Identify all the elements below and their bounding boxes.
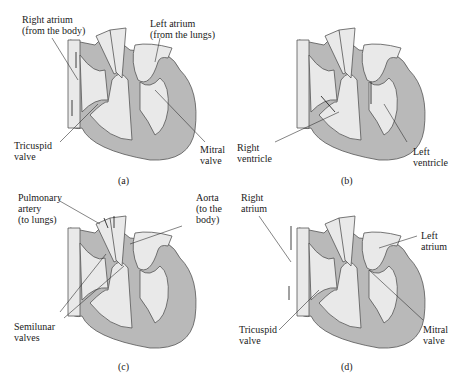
panel-d: Right atrium Left atrium Tricuspid valve…: [229, 188, 457, 373]
label-tricuspid-valve: Tricuspid valve: [14, 140, 52, 162]
label-tricuspid-valve: Tricuspid valve: [239, 324, 277, 346]
label-aorta: Aorta (to the body): [196, 192, 222, 225]
label-semilunar-valves: Semilunar valves: [14, 321, 55, 343]
label-right-atrium: Right atrium: [241, 192, 267, 214]
label-right-ventricle: Right ventricle: [237, 142, 272, 164]
panel-a: Right atrium (from the body) Left atrium…: [0, 0, 228, 186]
label-left-ventricle: Left ventricle: [413, 146, 448, 168]
caption-b: (b): [341, 175, 353, 186]
caption-a: (a): [118, 175, 129, 186]
panel-b: Right ventricle Left ventricle (b): [229, 0, 457, 186]
label-mitral-valve: Mitral valve: [423, 324, 448, 346]
panel-c: Pulmonary artery (to lungs) Aorta (to th…: [0, 188, 228, 373]
label-left-atrium: Left atrium (from the lungs): [150, 18, 215, 40]
label-mitral-valve: Mitral valve: [200, 144, 225, 166]
label-pulmonary-artery: Pulmonary artery (to lungs): [18, 192, 62, 225]
caption-d: (d): [341, 361, 353, 372]
caption-c: (c): [118, 361, 129, 372]
label-left-atrium: Left atrium: [421, 230, 447, 252]
label-right-atrium: Right atrium (from the body): [22, 14, 85, 36]
